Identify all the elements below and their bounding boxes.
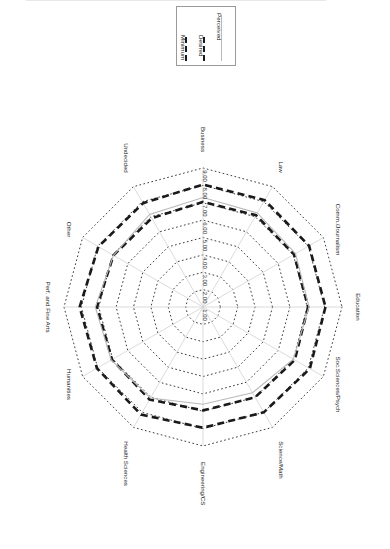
radial-tick-label: 1.00 xyxy=(202,309,208,321)
legend-label-perceived: Perceived xyxy=(216,13,223,41)
radial-tick-label: 6.00 xyxy=(202,222,208,234)
radial-tick-label: 2.00 xyxy=(202,292,208,304)
legend-label-minimum: Minimum xyxy=(180,35,187,60)
radial-tick-label: 9.00 xyxy=(202,170,208,182)
category-label-soc-sciences-psych: Soc.Sciences/Psych xyxy=(335,356,342,413)
radial-tick-labels: 1.002.003.004.005.006.007.008.009.00 xyxy=(202,170,208,321)
category-label-undecided: Undecided xyxy=(123,143,130,173)
radial-tick-label: 8.00 xyxy=(202,188,208,200)
radial-tick-label: 4.00 xyxy=(202,257,208,269)
radial-tick-label: 5.00 xyxy=(202,240,208,252)
radial-tick-label: 3.00 xyxy=(202,274,208,286)
category-label-perf-and-fine-arts: Perf. and Fine Arts xyxy=(45,281,52,332)
category-label-comm-journalism: Comm./Journalism xyxy=(335,204,342,256)
category-label-humanities: Humanities xyxy=(66,369,73,400)
category-label-science-math: Science/Math xyxy=(278,441,285,479)
category-label-other: Other xyxy=(66,222,73,237)
radar-chart-figure: 1.002.003.004.005.006.007.008.009.00 Edu… xyxy=(0,0,390,549)
category-label-education: Education xyxy=(355,293,362,321)
radar-chart-canvas: 1.002.003.004.005.006.007.008.009.00 Edu… xyxy=(0,0,390,549)
chart-legend: Minimum Desired Perceived xyxy=(176,6,236,66)
category-label-engineering-cs: Engineering/CS xyxy=(200,462,207,505)
radial-tick-label: 7.00 xyxy=(202,205,208,217)
category-label-law: Law xyxy=(278,161,285,173)
category-label-health-sciences: Health Sciences xyxy=(123,441,130,486)
figure-top-rule xyxy=(26,0,326,1)
category-label-business: Business xyxy=(200,127,207,152)
legend-label-desired: Desired xyxy=(198,35,205,56)
